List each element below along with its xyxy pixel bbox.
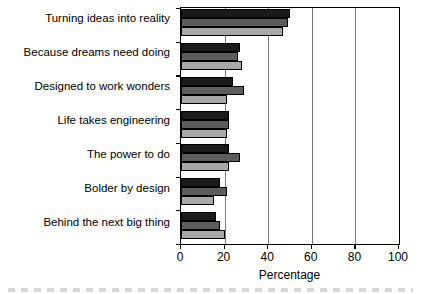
bar [181, 9, 290, 18]
bar [181, 144, 229, 153]
bar [181, 61, 242, 70]
bar [181, 111, 229, 120]
category-label: The power to do [0, 148, 170, 160]
bar-group [181, 178, 399, 205]
bar [181, 178, 220, 187]
category-label: Turning ideas into reality [0, 12, 170, 24]
category-label: Designed to work wonders [0, 80, 170, 92]
category-axis-labels: Turning ideas into reality Because dream… [0, 6, 176, 244]
bar-group [181, 144, 399, 171]
x-axis-tick-label: 100 [388, 250, 408, 264]
category-label: Behind the next big thing [0, 216, 170, 228]
x-axis-tick-label: 20 [217, 250, 230, 264]
bar [181, 86, 244, 95]
bar-chart: Turning ideas into reality Because dream… [0, 0, 421, 294]
bar-group [181, 212, 399, 239]
bar [181, 230, 225, 239]
x-axis-tick [354, 244, 355, 249]
x-axis-tick-labels: 020406080100 [0, 250, 421, 266]
x-axis-tick-label: 80 [348, 250, 361, 264]
x-axis-tick-label: 40 [261, 250, 274, 264]
bar-group [181, 9, 399, 36]
bar [181, 95, 227, 104]
bar [181, 43, 240, 52]
bar [181, 196, 214, 205]
plot-area [180, 7, 400, 245]
bar-group [181, 111, 399, 138]
x-axis-tick [180, 244, 181, 249]
bar-group [181, 77, 399, 104]
x-axis-title: Percentage [180, 268, 399, 282]
bar [181, 27, 283, 36]
bar [181, 129, 227, 138]
x-axis-tick [267, 244, 268, 249]
bar [181, 187, 227, 196]
bar [181, 120, 229, 129]
bar [181, 52, 238, 61]
bar [181, 153, 240, 162]
category-label: Because dreams need doing [0, 46, 170, 58]
bar [181, 77, 233, 86]
bar [181, 221, 220, 230]
x-axis-tick-label: 0 [177, 250, 184, 264]
category-label: Bolder by design [0, 182, 170, 194]
x-axis-tick [398, 244, 399, 249]
bar [181, 18, 288, 27]
bar [181, 162, 229, 171]
scan-artifact [8, 288, 413, 292]
x-axis-tick [311, 244, 312, 249]
category-label: Life takes engineering [0, 114, 170, 126]
bar [181, 212, 216, 221]
x-axis-tick-label: 60 [304, 250, 317, 264]
x-axis-tick [224, 244, 225, 249]
bar-group [181, 43, 399, 70]
